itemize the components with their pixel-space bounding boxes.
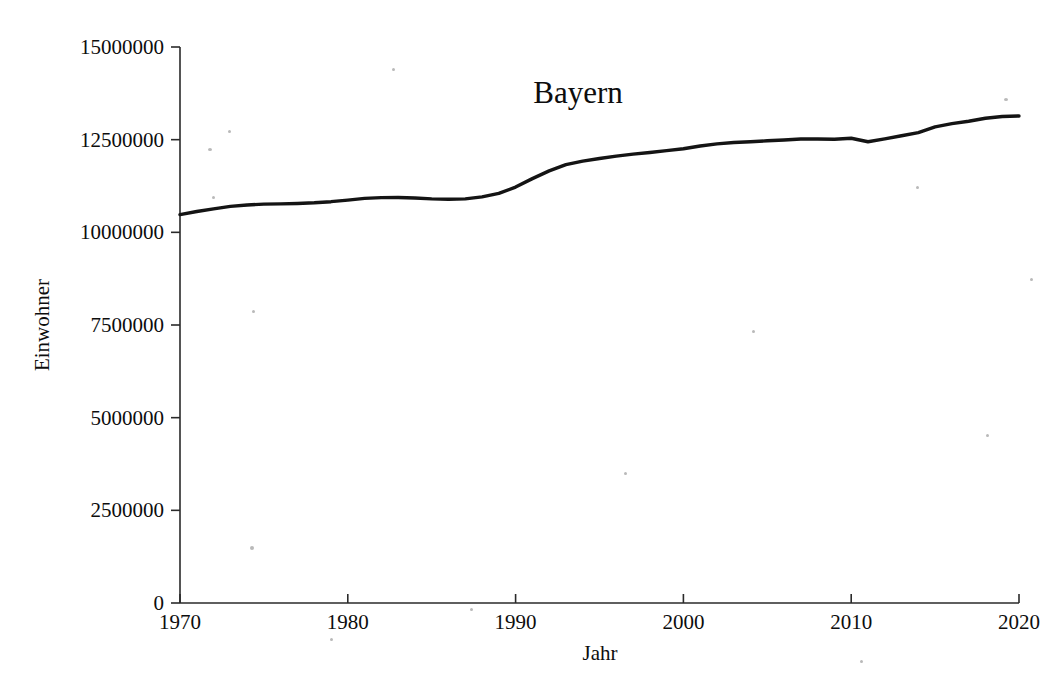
chart-title: Bayern bbox=[533, 75, 623, 110]
x-tick-label: 1970 bbox=[159, 610, 201, 634]
x-axis-ticks: 197019801990200020102020 bbox=[159, 594, 1040, 634]
data-series-group bbox=[180, 116, 1019, 215]
line-chart: Bayern 025000005000000750000010000000125… bbox=[0, 0, 1061, 688]
y-tick-label: 5000000 bbox=[91, 406, 165, 430]
y-tick-label: 12500000 bbox=[80, 128, 164, 152]
x-axis-title: Jahr bbox=[583, 641, 618, 665]
x-tick-label: 2010 bbox=[830, 610, 872, 634]
series-line bbox=[180, 116, 1019, 215]
y-tick-label: 15000000 bbox=[80, 35, 164, 59]
y-axis-title: Einwohner bbox=[30, 279, 54, 371]
x-tick-label: 1990 bbox=[495, 610, 537, 634]
x-tick-label: 1980 bbox=[327, 610, 369, 634]
y-tick-label: 10000000 bbox=[80, 220, 164, 244]
x-tick-label: 2020 bbox=[998, 610, 1040, 634]
y-axis-ticks: 0250000050000007500000100000001250000015… bbox=[80, 35, 180, 615]
x-tick-label: 2000 bbox=[662, 610, 704, 634]
chart-figure: Bayern 025000005000000750000010000000125… bbox=[0, 0, 1061, 688]
y-tick-label: 7500000 bbox=[91, 313, 165, 337]
y-tick-label: 2500000 bbox=[91, 498, 165, 522]
